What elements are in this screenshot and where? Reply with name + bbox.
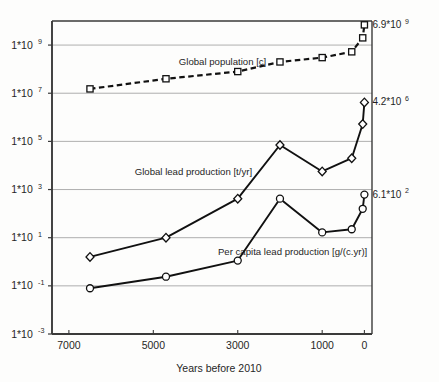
- series-label-0: Global population [c]: [179, 56, 266, 67]
- data-point-marker-square: [163, 76, 169, 82]
- data-point-marker-circle: [234, 257, 241, 264]
- annotation-value-1: 4.2*10: [372, 96, 401, 107]
- data-point-marker-circle: [276, 195, 283, 202]
- annotation-exponent-1: 6: [405, 95, 409, 102]
- data-point-marker-square: [319, 54, 325, 60]
- data-point-marker-square: [349, 49, 355, 55]
- annotation-exponent-0: 9: [405, 18, 409, 25]
- data-point-marker-square: [87, 86, 93, 92]
- data-point-marker-square: [361, 22, 367, 28]
- y-tick-label: 1*10: [11, 135, 33, 147]
- y-tick-exponent: 7: [38, 85, 42, 94]
- y-tick-exponent: 5: [38, 133, 42, 142]
- y-tick-label: 1*10: [11, 87, 33, 99]
- x-tick-label: 7000: [57, 339, 81, 351]
- series-label-1: Global lead production [t/yr]: [135, 166, 252, 177]
- y-tick-exponent: 1: [38, 230, 42, 239]
- x-tick-label: 3000: [226, 339, 250, 351]
- y-tick-exponent: 9: [38, 37, 42, 46]
- log-line-chart: 1*1091*1071*1051*1031*1011*10-11*10-3 70…: [0, 0, 439, 382]
- y-tick-exponent: -3: [38, 326, 44, 335]
- data-point-marker-circle: [359, 205, 366, 212]
- annotation-exponent-2: 2: [405, 187, 409, 194]
- annotation-value-0: 6.9*10: [372, 19, 401, 30]
- data-point-marker-circle: [319, 229, 326, 236]
- data-point-marker-circle: [86, 285, 93, 292]
- y-tick-exponent: 3: [38, 182, 42, 191]
- series-label-2: Per capita lead production [g/(c.yr)]: [218, 246, 367, 257]
- y-tick-exponent: -1: [38, 278, 44, 287]
- x-axis-title: Years before 2010: [176, 362, 262, 374]
- data-point-marker-square: [360, 35, 366, 41]
- chart-figure: 1*1091*1071*1051*1031*1011*10-11*10-3 70…: [0, 0, 439, 382]
- data-point-marker-circle: [348, 226, 355, 233]
- data-point-marker-square: [235, 68, 241, 74]
- data-point-marker-circle: [361, 191, 368, 198]
- y-tick-label: 1*10: [11, 231, 33, 243]
- data-point-marker-square: [277, 59, 283, 65]
- x-tick-label: 5000: [142, 339, 166, 351]
- y-tick-label: 1*10: [11, 183, 33, 195]
- y-tick-label: 1*10: [11, 328, 33, 340]
- data-point-marker-circle: [162, 273, 169, 280]
- x-tick-label: 1000: [311, 339, 335, 351]
- y-tick-label: 1*10: [11, 39, 33, 51]
- y-tick-label: 1*10: [11, 279, 33, 291]
- x-tick-label: 0: [361, 339, 367, 351]
- annotation-value-2: 6.1*10: [372, 189, 401, 200]
